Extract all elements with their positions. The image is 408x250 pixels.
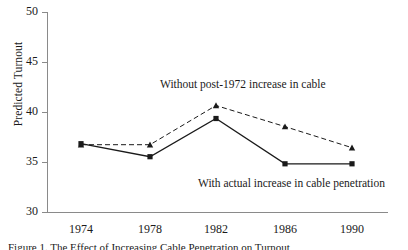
figure-predicted-turnout: Predicted Turnout 50 45 40 35 30 1974 19… (0, 0, 408, 250)
data-point-marker (349, 161, 354, 166)
series-without-cable-increase (78, 102, 355, 150)
x-tick-label-1974: 1974 (51, 222, 111, 237)
figure-caption: Figure 1. The Effect of Increasing Cable… (8, 241, 408, 250)
x-tick-label-1986: 1986 (255, 222, 315, 237)
x-tick-label-1982: 1982 (186, 222, 246, 237)
data-point-marker (213, 116, 218, 121)
x-tick-label-1978: 1978 (120, 222, 180, 237)
y-tick-label-35: 35 (26, 154, 38, 169)
annotation-without-cable-increase: Without post-1972 increase in cable (160, 78, 326, 90)
data-point-marker (78, 141, 83, 146)
data-point-marker (282, 161, 287, 166)
series-with-cable-increase (78, 116, 354, 166)
data-point-marker (147, 154, 152, 159)
annotation-with-cable-increase: With actual increase in cable penetratio… (198, 177, 385, 189)
series-line (81, 106, 352, 148)
data-point-marker (213, 102, 219, 108)
y-tick-label-45: 45 (26, 54, 38, 69)
y-tick-label-30: 30 (26, 204, 38, 219)
y-axis-title: Predicted Turnout (12, 14, 24, 154)
y-tick-label-50: 50 (26, 4, 38, 19)
data-point-marker (282, 123, 288, 129)
data-point-marker (349, 145, 355, 151)
series-line (81, 119, 352, 164)
y-tick-label-40: 40 (26, 104, 38, 119)
x-tick-label-1990: 1990 (322, 222, 382, 237)
